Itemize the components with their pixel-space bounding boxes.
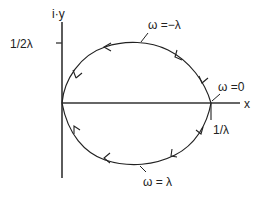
omega-lambda-label: ω = λ [143, 175, 172, 189]
diagram-canvas: i·y x 1/2λ 1/λ ω =−λ ω =0 ω = λ [0, 0, 265, 198]
label-leader-right [212, 94, 220, 101]
x-tick-label: 1/λ [213, 123, 229, 137]
arrow-icon [74, 126, 80, 134]
label-leader-bottom [140, 166, 146, 172]
y-axis-label: i·y [52, 7, 65, 21]
x-axis-label: x [244, 97, 250, 111]
arrow-icon [104, 43, 111, 51]
label-leader-top [141, 33, 148, 42]
arrow-icon [73, 70, 82, 78]
omega-minus-lambda-label: ω =−λ [148, 18, 181, 32]
y-tick-label: 1/2λ [10, 37, 33, 51]
arrow-icon [199, 76, 208, 83]
omega-zero-label: ω =0 [218, 80, 245, 94]
